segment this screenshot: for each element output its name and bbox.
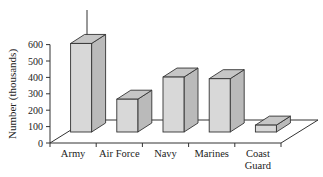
category-label: Navy — [154, 148, 177, 159]
bar — [71, 34, 106, 132]
category-label: Marines — [194, 148, 228, 159]
y-tick-label: 500 — [28, 56, 43, 67]
y-tick-label: 200 — [28, 105, 43, 116]
bar — [163, 68, 198, 132]
bar-chart: 0100200300400500600 ArmyAir ForceNavyMar… — [0, 0, 323, 177]
y-tick-label: 0 — [38, 138, 43, 149]
category-label: Army — [61, 148, 86, 159]
y-axis-title: Number (thousands) — [6, 49, 19, 139]
y-tick-label: 300 — [28, 88, 43, 99]
bar — [117, 90, 152, 132]
x-axis: ArmyAir ForceNavyMarinesCoastGuard — [50, 143, 281, 171]
y-tick-label: 100 — [28, 121, 43, 132]
y-tick-label: 400 — [28, 72, 43, 83]
category-label: Coast — [246, 148, 270, 159]
bar — [209, 70, 244, 132]
y-axis: 0100200300400500600 — [28, 39, 50, 148]
category-label: Guard — [245, 160, 272, 171]
bars — [71, 34, 291, 132]
y-tick-label: 600 — [28, 39, 43, 50]
category-label: Air Force — [99, 148, 140, 159]
